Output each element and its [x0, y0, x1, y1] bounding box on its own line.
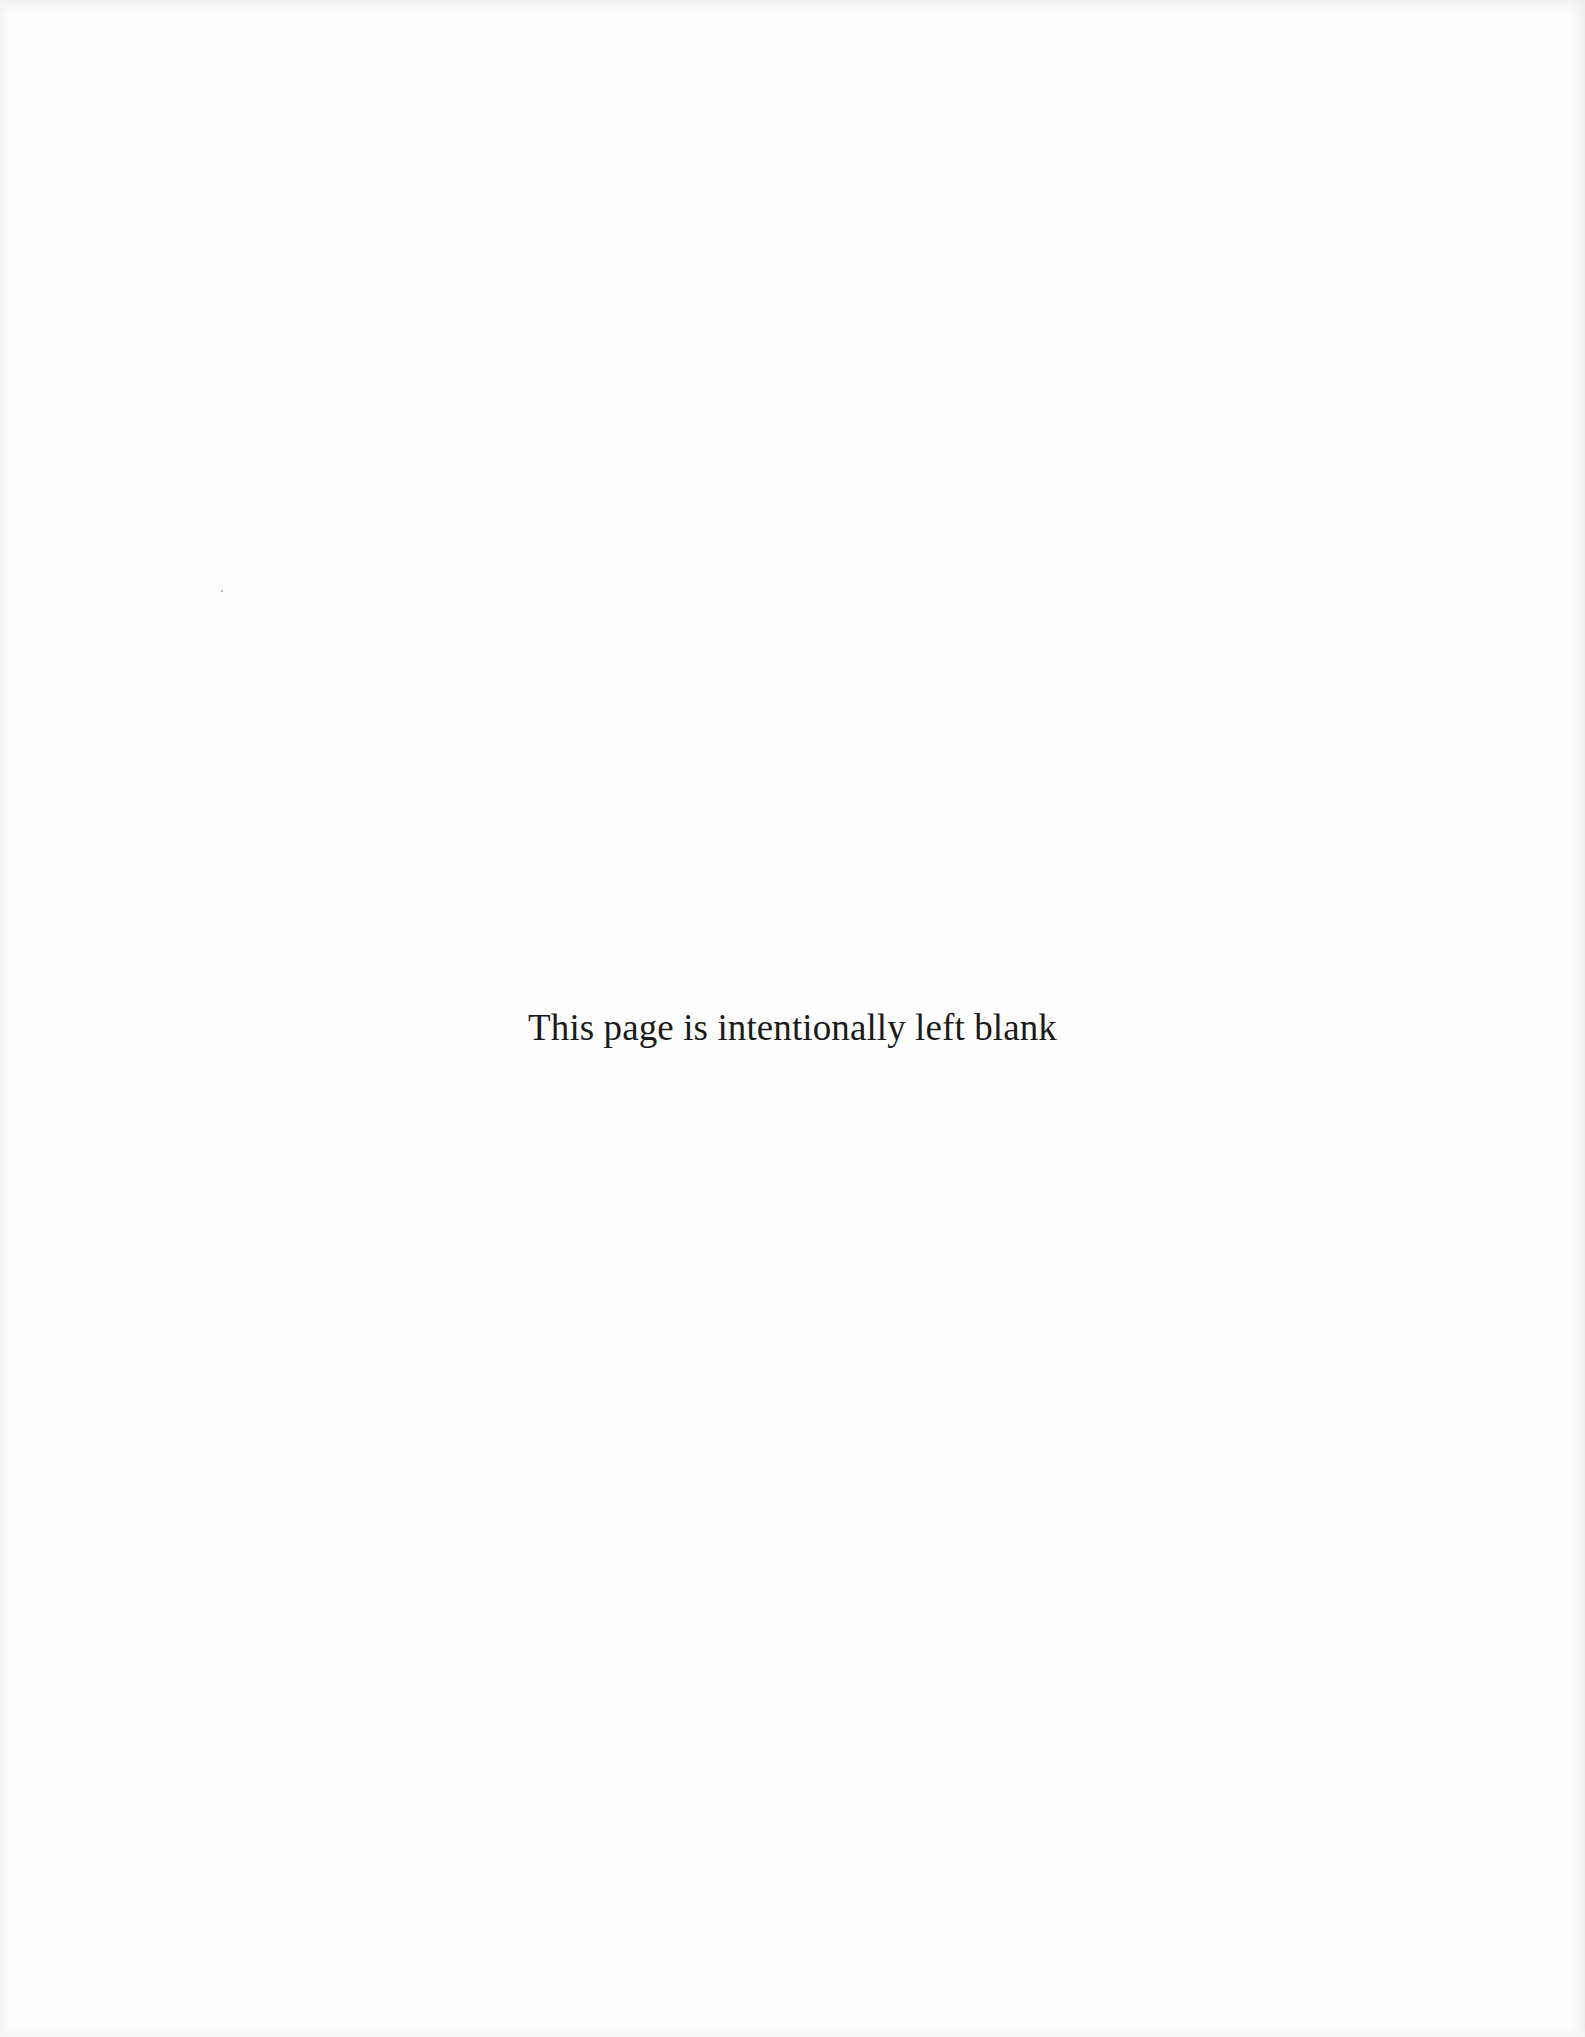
document-page: This page is intentionally left blank: [0, 0, 1585, 2037]
blank-page-notice: This page is intentionally left blank: [0, 1003, 1585, 1053]
scan-edge-top: [0, 0, 1585, 14]
scan-speck: [221, 590, 223, 592]
scan-edge-bottom: [0, 2027, 1585, 2037]
